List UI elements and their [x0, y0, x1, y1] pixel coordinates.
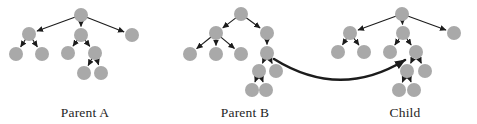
tree-node-child-lr	[357, 45, 371, 59]
tree-node-parent-a-l	[22, 27, 36, 41]
tree-node-parent-b-l3	[234, 47, 248, 61]
tree-node-child-mra	[400, 64, 414, 78]
tree-label-parent-a: Parent A	[61, 106, 109, 120]
tree-node-parent-a-m	[74, 28, 88, 42]
tree-node-parent-a-mrl	[77, 66, 91, 80]
tree-edge-l-l1	[197, 37, 212, 49]
tree-node-parent-b-r1	[260, 46, 274, 60]
tree-edge-l-ll	[21, 39, 26, 47]
tree-edge-l-lr	[32, 39, 37, 47]
tree-label-child: Child	[389, 106, 420, 120]
tree-node-parent-b-r	[260, 26, 274, 40]
tree-edge-l-lr	[354, 38, 359, 45]
tree-node-parent-a-root	[74, 8, 88, 22]
tree-node-parent-a-ml	[61, 46, 75, 60]
tree-node-child-mrb	[418, 64, 432, 78]
tree-edge-root-r	[246, 18, 260, 28]
tree-edge-mr-mrl	[88, 58, 92, 65]
tree-node-child-m	[396, 26, 410, 40]
tree-edge-m-ml	[73, 40, 78, 46]
tree-node-parent-b-r1a2	[259, 83, 273, 97]
tree-node-parent-a-ll	[9, 47, 23, 61]
tree-node-parent-b-root	[234, 7, 248, 21]
figure-canvas: Parent A Parent B Child	[0, 0, 477, 124]
tree-node-parent-a-mrr	[94, 66, 108, 80]
tree-edge-root-l	[223, 18, 236, 28]
tree-node-parent-b-l1	[183, 47, 197, 61]
tree-node-child-l	[343, 26, 357, 40]
tree-edge-m-mr	[406, 38, 411, 45]
tree-node-parent-b-r1a1	[245, 83, 259, 97]
tree-edge-l-l3	[221, 37, 235, 49]
tree-node-child-ll	[331, 45, 345, 59]
tree-node-child-r	[447, 26, 461, 40]
tree-node-child-mr	[409, 45, 423, 59]
tree-edge-m-mr	[85, 40, 90, 47]
tree-node-parent-b-r1b	[269, 64, 283, 78]
tree-edge-root-r	[87, 17, 125, 32]
tree-parent-b	[183, 7, 283, 97]
tree-node-parent-b-l	[209, 26, 223, 40]
tree-node-child-mra1	[392, 83, 406, 97]
tree-edge-root-l	[358, 16, 396, 30]
tree-parent-a	[9, 8, 139, 80]
tree-edge-root-r	[408, 16, 446, 30]
tree-node-parent-b-r1a	[252, 64, 266, 78]
tree-node-parent-a-lr	[35, 47, 49, 61]
tree-node-parent-b-l2	[209, 47, 223, 61]
tree-edge-m-ml	[395, 38, 400, 45]
tree-child	[331, 7, 461, 97]
tree-label-parent-b: Parent B	[221, 106, 269, 120]
tree-node-parent-a-r	[125, 28, 139, 42]
tree-node-child-ml	[383, 45, 397, 59]
tree-node-child-mra2	[407, 83, 421, 97]
crossover-subtree-arrow	[274, 59, 405, 80]
tree-node-child-root	[395, 7, 409, 21]
tree-edge-root-l	[37, 17, 75, 31]
tree-node-parent-a-mr	[88, 46, 102, 60]
tree-edge-l-ll	[343, 38, 347, 45]
